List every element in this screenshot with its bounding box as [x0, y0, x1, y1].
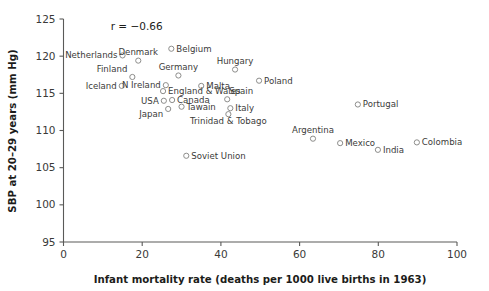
data-marker: [338, 141, 343, 146]
data-marker: [130, 74, 135, 79]
x-tick-label: 0: [60, 248, 67, 260]
data-marker: [375, 147, 380, 152]
data-point-label: Japan: [138, 109, 163, 119]
data-point-label: Malta: [206, 81, 230, 91]
chart-canvas: 95100105110115120125020406080100 Netherl…: [0, 0, 489, 291]
y-tick-label: 120: [35, 50, 55, 62]
correlation-annotation: r = −0.66: [111, 20, 163, 32]
data-marker: [228, 106, 233, 111]
data-point-label: Italy: [235, 103, 254, 113]
x-axis-title: Infant mortality rate (deaths per 1000 l…: [94, 274, 427, 285]
data-point-label: Trinidad & Tobago: [189, 116, 267, 126]
data-point-label: USA: [141, 96, 159, 106]
x-tick-label: 100: [447, 248, 467, 260]
data-point-label: Tawain: [186, 102, 216, 112]
data-point-label: N Ireland: [122, 80, 161, 90]
data-marker: [225, 97, 230, 102]
y-tick-label: 100: [35, 198, 55, 210]
data-marker: [355, 102, 360, 107]
data-marker: [184, 153, 189, 158]
data-marker: [310, 136, 315, 141]
data-marker: [176, 73, 181, 78]
data-point-label: Colombia: [422, 137, 462, 147]
data-point-label: Soviet Union: [191, 151, 245, 161]
y-axis-title: SBP at 20–29 years (mm Hg): [7, 49, 18, 212]
x-tick-label: 80: [372, 248, 385, 260]
y-tick-label: 110: [35, 124, 55, 136]
data-point-label: Mexico: [345, 138, 375, 148]
data-marker: [232, 67, 237, 72]
data-point-label: Portugal: [363, 99, 399, 109]
data-point-label: Hungary: [217, 56, 254, 66]
data-marker: [169, 46, 174, 51]
data-point-label: Germany: [159, 62, 199, 72]
data-point-label: Finland: [97, 64, 128, 74]
data-point-label: Spain: [229, 86, 253, 96]
data-marker: [256, 78, 261, 83]
scatter-plot-figure: 95100105110115120125020406080100 Netherl…: [0, 0, 489, 291]
y-tick-label: 115: [35, 87, 55, 99]
data-marker: [161, 98, 166, 103]
data-marker: [170, 97, 175, 102]
data-point-label: Belgium: [176, 44, 211, 54]
data-marker: [160, 89, 165, 94]
data-marker: [136, 58, 141, 63]
y-tick-label: 105: [35, 161, 55, 173]
data-point-label: Iceland: [86, 81, 117, 91]
x-tick-label: 40: [214, 248, 227, 260]
data-marker: [414, 140, 419, 145]
data-point-label: Netherlands: [65, 50, 118, 60]
x-tick-label: 60: [293, 248, 306, 260]
y-tick-label: 95: [42, 236, 55, 248]
data-point-label: Argentina: [292, 125, 334, 135]
data-point-label: Denmark: [119, 47, 159, 57]
x-tick-label: 20: [136, 248, 149, 260]
data-point-labels: NetherlandsDenmarkBelgiumFinlandIcelandG…: [65, 44, 462, 161]
chart-annotations: r = −0.66: [111, 20, 163, 32]
data-point-label: India: [383, 145, 404, 155]
y-tick-label: 125: [35, 13, 55, 25]
data-marker: [166, 106, 171, 111]
data-point-label: Poland: [264, 76, 293, 86]
